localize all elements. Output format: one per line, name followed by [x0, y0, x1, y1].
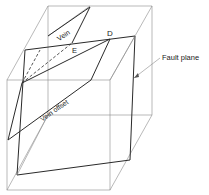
vein-offset [8, 39, 110, 140]
point-e-label: E [72, 46, 77, 55]
vein-upper [22, 7, 90, 83]
vein-label: Vein [56, 29, 71, 42]
point-d-label: D [107, 29, 113, 38]
vein-offset-label: Vein offset [39, 98, 70, 122]
fault-plane-label: Fault plane [162, 53, 199, 62]
outer-box [7, 6, 152, 190]
fault-plane [17, 36, 135, 175]
fault-block-diagram: Vein E D Vein offset Fault plane [0, 0, 209, 195]
arrowhead-icon [134, 73, 139, 78]
